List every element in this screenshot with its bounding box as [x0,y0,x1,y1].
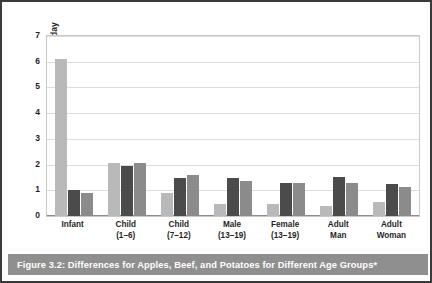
bar-apples [373,202,385,216]
y-tick-label-2: 2 [20,160,40,169]
bar-potatoes [346,183,358,216]
x-axis-label: Child(7–12) [152,220,205,241]
plot-area [46,35,420,217]
x-axis-labels: InfantChild(1–6)Child(7–12)Male(13–19)Fe… [46,220,420,250]
bar-group [366,36,419,216]
caption-bar: Figure 3.2: Differences for Apples, Beef… [8,254,428,275]
bar-potatoes [81,193,93,216]
bar-potatoes [399,187,411,216]
bar-group [313,36,366,216]
bar-beef [386,184,398,216]
y-tick-label-3: 3 [20,134,40,143]
figure-caption: Figure 3.2: Differences for Apples, Beef… [8,260,377,270]
bar-apples [267,204,279,216]
y-tick-label-1: 1 [20,185,40,194]
bar-apples [108,163,120,217]
y-tick-label-7: 7 [20,31,40,40]
x-axis-label: AdultMan [312,220,365,241]
bar-beef [121,166,133,216]
bar-apples [161,193,173,216]
bar-group [47,36,100,216]
x-axis-label: AdultWoman [365,220,418,241]
x-axis-label: Infant [46,220,99,231]
bar-beef [68,190,80,216]
bar-group [153,36,206,216]
y-tick-label-4: 4 [20,108,40,117]
bar-potatoes [187,175,199,216]
y-tick-label-5: 5 [20,82,40,91]
x-axis-label: Child(1–6) [99,220,152,241]
bars-layer [47,36,419,216]
x-axis-label: Female(13–19) [259,220,312,241]
bar-group [100,36,153,216]
x-axis-label: Male(13–19) [205,220,258,241]
bar-beef [174,178,186,216]
bar-group [260,36,313,216]
bar-potatoes [240,181,252,217]
bar-apples [55,59,67,216]
bar-potatoes [293,183,305,216]
bar-beef [333,177,345,216]
y-tick-label-6: 6 [20,57,40,66]
bar-beef [280,183,292,216]
bar-potatoes [134,163,146,216]
chart-card: Grams of Food/kg/day ApplesBeefPotatoes … [8,7,428,247]
bar-group [206,36,259,216]
bar-apples [214,204,226,216]
y-tick-label-0: 0 [20,211,40,220]
bar-apples [320,206,332,216]
bar-beef [227,178,239,216]
figure-container: Grams of Food/kg/day ApplesBeefPotatoes … [0,0,432,283]
